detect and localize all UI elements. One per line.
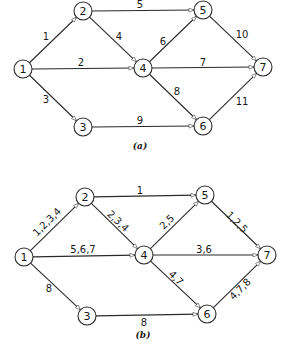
edge-label-2-5: 5	[137, 0, 143, 10]
edge-4-5	[149, 16, 196, 61]
node-label: 4	[141, 249, 148, 262]
edge-5-7	[210, 16, 257, 61]
edge-label-1-4: 2	[78, 57, 84, 68]
edge-1-2	[29, 17, 76, 62]
node-label: 3	[84, 310, 91, 323]
edge-label-3-6: 9	[137, 115, 143, 126]
edge-label-4-6: 8	[174, 86, 180, 97]
node-4: 4	[135, 246, 153, 264]
node-2: 2	[76, 188, 94, 206]
edge-label-4-5: 6	[160, 36, 166, 47]
node-2: 2	[74, 2, 92, 20]
node-label: 6	[200, 120, 207, 133]
edge-label-5-7: 1,2,5	[224, 209, 250, 235]
edge-2-4	[90, 17, 137, 62]
network-diagram-canvas: 12345678910111234567(a) 1,2,3,45,6,782,3…	[0, 0, 290, 356]
edge-label-2-4: 4	[116, 31, 122, 42]
edge-6-7	[209, 73, 256, 119]
edge-label-1-3: 8	[46, 283, 52, 294]
node-7: 7	[258, 246, 276, 264]
edge-2-5	[94, 195, 196, 197]
node-4: 4	[134, 59, 152, 77]
edge-label-1-2: 1	[43, 31, 49, 42]
node-5: 5	[196, 186, 214, 204]
node-label: 5	[200, 4, 207, 17]
edge-label-4-7: 3,6	[196, 244, 212, 255]
node-1: 1	[14, 60, 32, 78]
node-1: 1	[15, 248, 33, 266]
node-label: 4	[140, 62, 147, 75]
node-label: 1	[20, 63, 27, 76]
edge-label-1-4: 5,6,7	[70, 244, 95, 255]
node-5: 5	[194, 1, 212, 19]
node-label: 1	[21, 251, 28, 264]
node-label: 5	[202, 189, 209, 202]
node-6: 6	[194, 117, 212, 135]
edge-label-5-7: 10	[236, 29, 249, 40]
edge-label-2-5: 1	[137, 185, 143, 196]
edge-3-6	[92, 126, 194, 127]
edge-1-3	[29, 75, 76, 120]
edge-label-4-7: 7	[200, 57, 206, 68]
node-label: 6	[204, 308, 211, 321]
node-label: 7	[260, 61, 267, 74]
edge-label-6-7: 11	[236, 96, 249, 107]
edge-label-4-6: 4,7	[166, 268, 185, 287]
diagram-caption: (b)	[136, 330, 151, 340]
edge-2-5	[92, 10, 194, 11]
edge-4-6	[149, 74, 196, 119]
node-3: 3	[78, 307, 96, 325]
node-3: 3	[74, 118, 92, 136]
edge-label-6-7: 4,7,8	[227, 276, 253, 302]
node-label: 7	[264, 249, 271, 262]
edge-1-3	[31, 263, 81, 310]
node-label: 2	[82, 191, 89, 204]
node-7: 7	[254, 58, 272, 76]
edge-label-4-5: 2,5	[157, 212, 176, 231]
diagram-b: 1,2,3,45,6,782,3,412,53,64,781,2,54,7,81…	[15, 185, 276, 341]
diagram-a: 12345678910111234567(a)	[14, 0, 272, 151]
node-label: 2	[80, 5, 87, 18]
edge-label-1-3: 3	[43, 94, 49, 105]
edge-label-3-6: 8	[141, 317, 147, 328]
edge-label-1-2: 1,2,3,4	[31, 206, 64, 239]
edge-1-4	[32, 68, 134, 69]
node-6: 6	[198, 305, 216, 323]
diagram-caption: (a)	[133, 141, 147, 151]
node-label: 3	[80, 121, 87, 134]
edge-1-4	[33, 255, 135, 257]
